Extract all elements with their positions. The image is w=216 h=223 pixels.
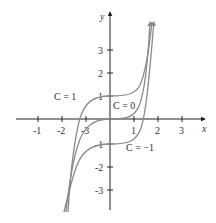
x-tick-label: -1: [33, 125, 41, 136]
y-tick-label: 3: [98, 45, 103, 56]
x-tick-label: 3: [179, 125, 184, 136]
y-tick-label: -2: [95, 162, 103, 173]
y-tick-label: 2: [98, 68, 103, 79]
x-tick-label: 2: [155, 125, 160, 136]
x-axis-label: x: [201, 123, 207, 134]
curve-label-c-neg1: C = −1: [126, 142, 154, 153]
curve-label-c-0: C = 0: [113, 100, 135, 111]
y-axis-label: y: [99, 11, 105, 22]
curve-label-c-1: C = 1: [54, 91, 76, 102]
y-tick-label: -3: [95, 185, 103, 196]
chart-canvas: -1 -2 -3 1 2 3 3 2 1 -1 -2 -3 y x C = 1 …: [0, 0, 216, 223]
x-tick-label: 1: [131, 125, 136, 136]
x-tick-label: -2: [57, 125, 65, 136]
